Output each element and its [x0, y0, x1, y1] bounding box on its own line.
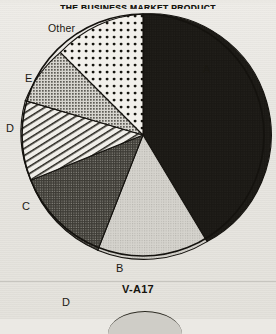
pie-chart: A B C D E Other [0, 0, 276, 276]
pie-label-c: C [22, 200, 30, 212]
figure-caption: V-A17 [0, 283, 276, 295]
pie-label-other: Other [48, 22, 75, 34]
next-figure-label-d: D [62, 296, 70, 308]
pie-label-b: B [116, 262, 124, 274]
pie-label-a: A [203, 63, 211, 75]
pie-label-e: E [25, 72, 33, 84]
pie-svg [0, 0, 276, 276]
page-rule [0, 281, 276, 282]
pie-label-d: D [6, 122, 14, 134]
